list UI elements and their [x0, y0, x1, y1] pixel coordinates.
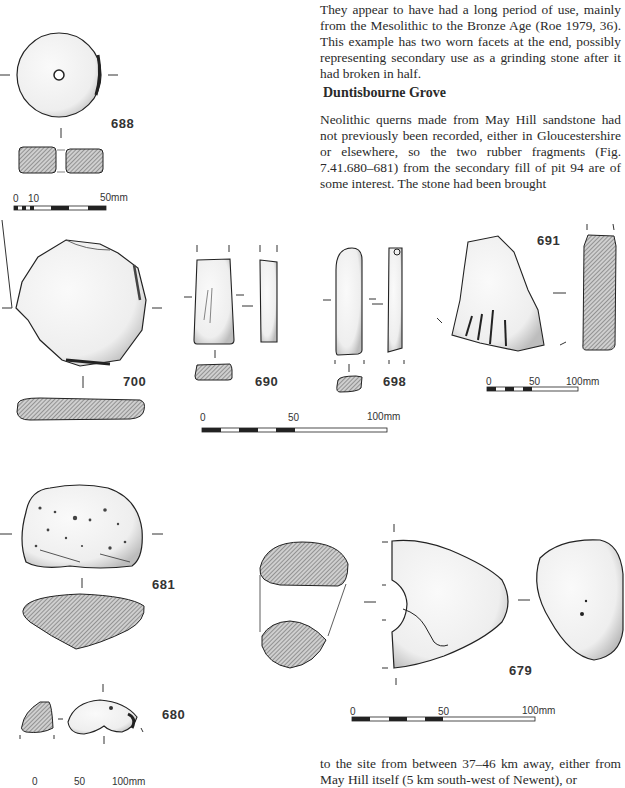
figure-label-700: 700	[123, 374, 146, 389]
scale-tick-50: 50	[438, 706, 449, 717]
artifact-679-drawing	[240, 480, 625, 710]
paragraph-duntisbourne: Neolithic querns made from May Hill sand…	[320, 112, 621, 192]
scale-tick-50: 50	[74, 776, 85, 787]
scale-tick-50: 50	[288, 412, 299, 423]
scale-tick-50: 50	[529, 376, 540, 387]
scale-tick-0: 0	[13, 193, 19, 204]
figure-label-690: 690	[255, 374, 278, 389]
paragraph-continuation: to the site from between 37–46 km away, …	[320, 756, 621, 788]
figure-label-691: 691	[537, 233, 560, 248]
scale-tick-0: 0	[200, 412, 206, 423]
scale-tick-0: 0	[486, 376, 492, 387]
scale-tick-100mm: 100mm	[566, 376, 599, 387]
figure-label-680: 680	[162, 707, 185, 722]
scale-tick-50mm: 50mm	[100, 192, 128, 203]
scale-tick-100mm: 100mm	[367, 411, 400, 422]
figure-label-688: 688	[111, 116, 134, 131]
artifact-690-drawing	[160, 220, 280, 380]
scale-tick-100mm: 100mm	[522, 705, 555, 716]
scale-tick-10: 10	[28, 193, 39, 204]
figure-label-681: 681	[152, 577, 175, 592]
artifact-698-drawing	[320, 220, 420, 395]
scale-tick-0: 0	[350, 706, 356, 717]
scale-tick-100mm: 100mm	[112, 776, 145, 787]
section-heading: Duntisbourne Grove	[323, 85, 446, 101]
artifact-700-drawing	[0, 220, 170, 440]
artifact-681-drawing	[0, 450, 200, 640]
paragraph-intro: They appear to have had a long period of…	[320, 2, 621, 82]
artifact-691-drawing	[420, 220, 625, 370]
figure-label-698: 698	[383, 374, 406, 389]
scale-tick-0: 0	[32, 776, 38, 787]
artifact-688-drawing	[0, 0, 160, 220]
figure-label-679: 679	[509, 663, 532, 678]
